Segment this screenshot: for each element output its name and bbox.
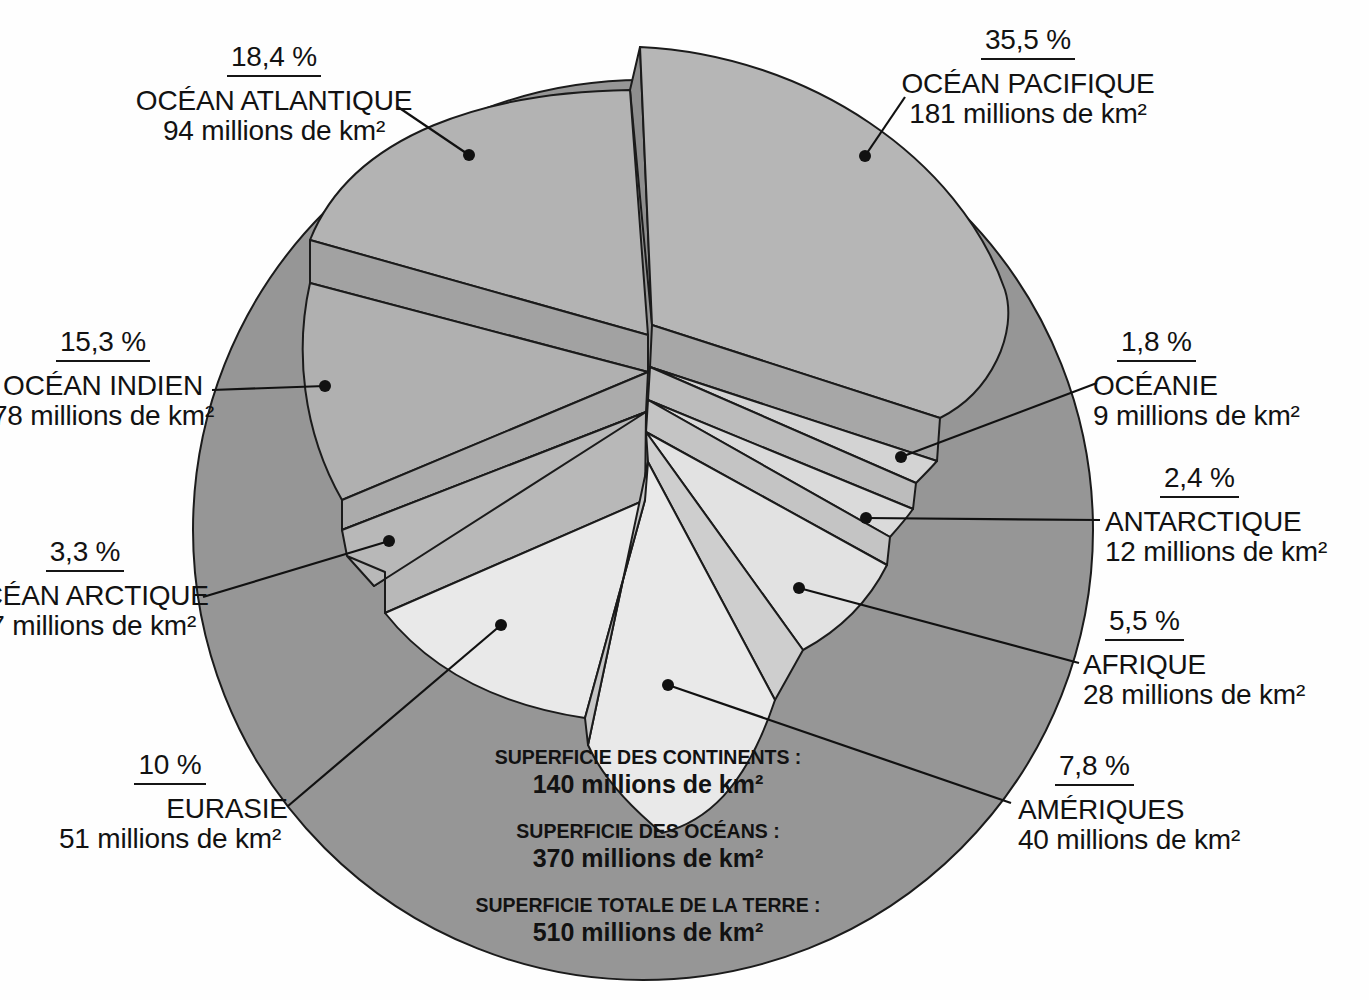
label-eurasie: 10 % EURASIE 51 millions de km² bbox=[0, 750, 340, 855]
eurasie-value: 51 millions de km² bbox=[0, 824, 340, 854]
oceanie-percent: 1,8 % bbox=[1117, 327, 1363, 362]
eurasie-percent-text: 10 % bbox=[134, 750, 205, 785]
oceanie-value: 9 millions de km² bbox=[1093, 401, 1363, 431]
pacifique-value: 181 millions de km² bbox=[858, 99, 1198, 129]
afrique-value: 28 millions de km² bbox=[1083, 680, 1369, 710]
dot-arctique bbox=[383, 535, 395, 547]
dot-eurasie bbox=[495, 619, 507, 631]
dot-oceanie bbox=[895, 451, 907, 463]
oceanie-percent-text: 1,8 % bbox=[1117, 327, 1196, 362]
totals-block: SUPERFICIE DES CONTINENTS : 140 millions… bbox=[448, 746, 848, 947]
pacifique-percent: 35,5 % bbox=[858, 25, 1198, 60]
label-afrique: 5,5 % AFRIQUE 28 millions de km² bbox=[1083, 606, 1369, 711]
label-oceanie: 1,8 % OCÉANIE 9 millions de km² bbox=[1093, 327, 1363, 432]
label-antarctique: 2,4 % ANTARCTIQUE 12 millions de km² bbox=[1105, 463, 1369, 568]
label-ocean-atlantique: 18,4 % OCÉAN ATLANTIQUE 94 millions de k… bbox=[104, 42, 444, 147]
earth-total-label: SUPERFICIE TOTALE DE LA TERRE : bbox=[448, 894, 848, 917]
afrique-percent: 5,5 % bbox=[1105, 606, 1369, 641]
ameriques-percent-text: 7,8 % bbox=[1055, 751, 1134, 786]
ameriques-name: AMÉRIQUES bbox=[1018, 795, 1318, 825]
continents-total-label: SUPERFICIE DES CONTINENTS : bbox=[448, 746, 848, 769]
earth-total-value: 510 millions de km² bbox=[448, 918, 848, 947]
dot-atlantique bbox=[463, 149, 475, 161]
continents-total-value: 140 millions de km² bbox=[448, 770, 848, 799]
arctique-percent: 3,3 % bbox=[0, 537, 255, 572]
atlantique-value: 94 millions de km² bbox=[104, 116, 444, 146]
page: 35,5 % OCÉAN PACIFIQUE 181 millions de k… bbox=[0, 0, 1369, 1000]
eurasie-percent: 10 % bbox=[0, 750, 340, 785]
atlantique-name: OCÉAN ATLANTIQUE bbox=[104, 86, 444, 116]
atlantique-percent: 18,4 % bbox=[104, 42, 444, 77]
oceanie-name: OCÉANIE bbox=[1093, 371, 1363, 401]
label-ocean-pacifique: 35,5 % OCÉAN PACIFIQUE 181 millions de k… bbox=[858, 25, 1198, 130]
pacifique-percent-text: 35,5 % bbox=[981, 25, 1075, 60]
antarctique-value: 12 millions de km² bbox=[1105, 537, 1369, 567]
arctique-name: OCÉAN ARCTIQUE bbox=[0, 581, 255, 611]
atlantique-percent-text: 18,4 % bbox=[227, 42, 321, 77]
dot-antarctique bbox=[860, 512, 872, 524]
label-ocean-indien: 15,3 % OCÉAN INDIEN 78 millions de km² bbox=[0, 327, 273, 432]
dot-ameriques bbox=[662, 679, 674, 691]
ameriques-percent: 7,8 % bbox=[1055, 751, 1318, 786]
afrique-name: AFRIQUE bbox=[1083, 650, 1369, 680]
dot-indien bbox=[319, 380, 331, 392]
eurasie-name: EURASIE bbox=[57, 794, 397, 824]
indien-percent: 15,3 % bbox=[0, 327, 273, 362]
label-ameriques: 7,8 % AMÉRIQUES 40 millions de km² bbox=[1018, 751, 1318, 856]
antarctique-percent-text: 2,4 % bbox=[1160, 463, 1239, 498]
indien-value: 78 millions de km² bbox=[0, 401, 273, 431]
oceans-total-label: SUPERFICIE DES OCÉANS : bbox=[448, 820, 848, 843]
afrique-percent-text: 5,5 % bbox=[1105, 606, 1184, 641]
indien-percent-text: 15,3 % bbox=[56, 327, 150, 362]
dot-afrique bbox=[793, 582, 805, 594]
arctique-value: 17 millions de km² bbox=[0, 611, 255, 641]
indien-name: OCÉAN INDIEN bbox=[0, 371, 273, 401]
antarctique-percent: 2,4 % bbox=[1160, 463, 1369, 498]
arctique-percent-text: 3,3 % bbox=[46, 537, 125, 572]
label-ocean-arctique: 3,3 % OCÉAN ARCTIQUE 17 millions de km² bbox=[0, 537, 255, 642]
antarctique-name: ANTARCTIQUE bbox=[1105, 507, 1369, 537]
dot-pacifique bbox=[859, 150, 871, 162]
pacifique-name: OCÉAN PACIFIQUE bbox=[858, 69, 1198, 99]
oceans-total-value: 370 millions de km² bbox=[448, 844, 848, 873]
ameriques-value: 40 millions de km² bbox=[1018, 825, 1318, 855]
